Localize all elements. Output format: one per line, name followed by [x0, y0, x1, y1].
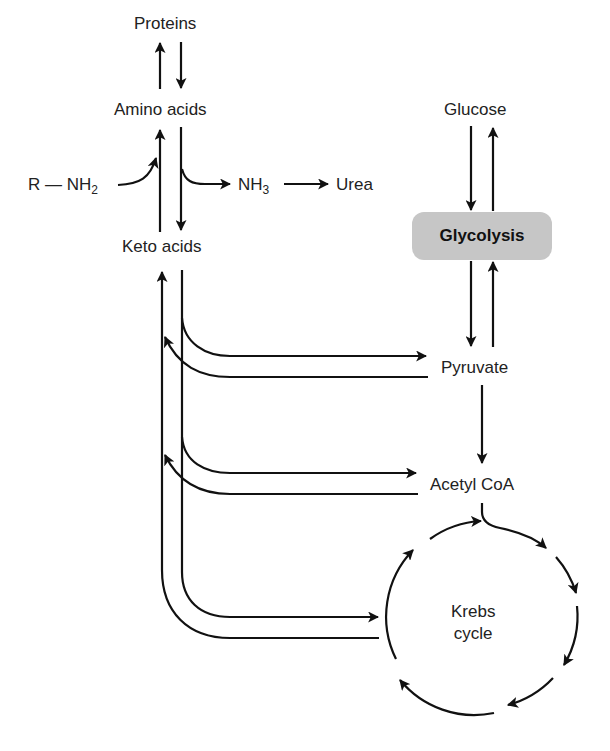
- nh3-subscript: 3: [263, 183, 270, 197]
- arrow-acetylcoa-to-krebs: [482, 503, 546, 548]
- label-krebs-cycle: Krebs cycle: [451, 601, 495, 645]
- r-nh2-text: R — NH: [28, 175, 91, 194]
- label-glycolysis: Glycolysis: [439, 226, 524, 246]
- arrow-rnh2-to-amino: [118, 158, 156, 185]
- label-proteins: Proteins: [134, 15, 196, 32]
- label-acetyl-coa: Acetyl CoA: [430, 476, 514, 493]
- label-urea: Urea: [336, 176, 373, 193]
- label-pyruvate: Pyruvate: [441, 359, 508, 376]
- label-amino-acids: Amino acids: [114, 101, 207, 118]
- arrow-acetylcoa-to-keto: [165, 455, 418, 494]
- krebs-line-2: cycle: [451, 623, 495, 645]
- arrow-krebs-to-keto: [162, 272, 379, 638]
- arrow-amino-to-nh3: [182, 169, 230, 184]
- arrow-keto-to-pyruvate: [182, 318, 426, 356]
- label-keto-acids: Keto acids: [122, 238, 201, 255]
- r-nh2-subscript: 2: [91, 183, 98, 197]
- arrow-keto-to-acetylcoa: [182, 437, 416, 473]
- nh3-text: NH: [238, 175, 263, 194]
- glycolysis-box: Glycolysis: [412, 212, 552, 260]
- krebs-line-1: Krebs: [451, 601, 495, 623]
- label-nh3: NH3: [238, 176, 269, 193]
- label-r-nh2: R — NH2: [28, 176, 98, 193]
- arrow-keto-to-krebs: [182, 270, 378, 617]
- label-glucose: Glucose: [444, 101, 506, 118]
- metabolic-pathway-diagram: [0, 0, 610, 751]
